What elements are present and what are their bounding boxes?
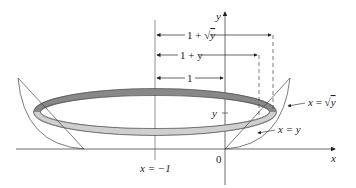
y-axis-label: y bbox=[215, 10, 221, 22]
curve-label-sqrt: x = √y bbox=[307, 96, 336, 108]
dimension-middle: 1 + y bbox=[157, 49, 257, 61]
y-tick-label: y bbox=[211, 107, 217, 119]
dimension-inner: 1 bbox=[157, 72, 223, 84]
right-region-curves bbox=[225, 78, 290, 149]
curve-label-linear: x = y bbox=[277, 123, 301, 135]
svg-text:1 + √y: 1 + √y bbox=[187, 29, 215, 41]
left-region-curves bbox=[18, 78, 84, 149]
origin-label: 0 bbox=[216, 153, 222, 165]
svg-text:1: 1 bbox=[187, 72, 193, 84]
washer-diagram: 1 + √y 1 + y 1 y x = √y x = y y x 0 x = … bbox=[0, 0, 356, 188]
x-axis-label: x bbox=[330, 152, 336, 164]
vertical-line-label: x = −1 bbox=[139, 162, 171, 174]
dimension-outer: 1 + √y bbox=[157, 29, 271, 41]
svg-text:1 + y: 1 + y bbox=[180, 49, 203, 61]
